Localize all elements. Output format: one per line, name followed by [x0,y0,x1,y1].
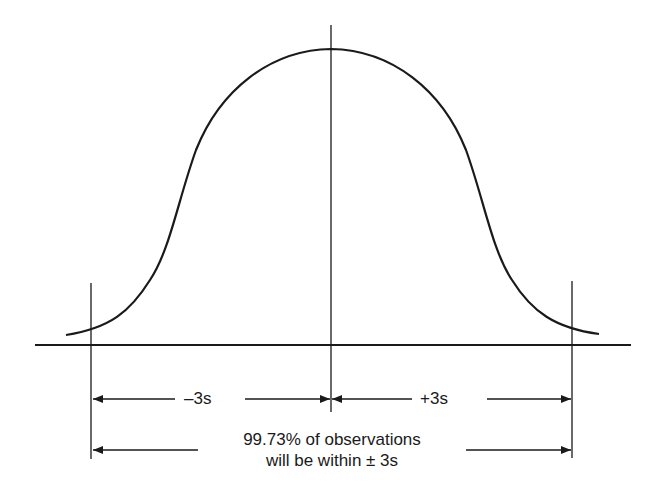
plus-3s-label: +3s [420,389,448,409]
caption: 99.73% of observations will be within ± … [205,429,459,471]
caption-line-2: will be within ± 3s [205,450,459,471]
caption-line-1: 99.73% of observations [205,429,459,450]
minus-3s-label: –3s [184,389,211,409]
bell-curve [66,49,599,335]
bell-curve-diagram [0,0,662,502]
